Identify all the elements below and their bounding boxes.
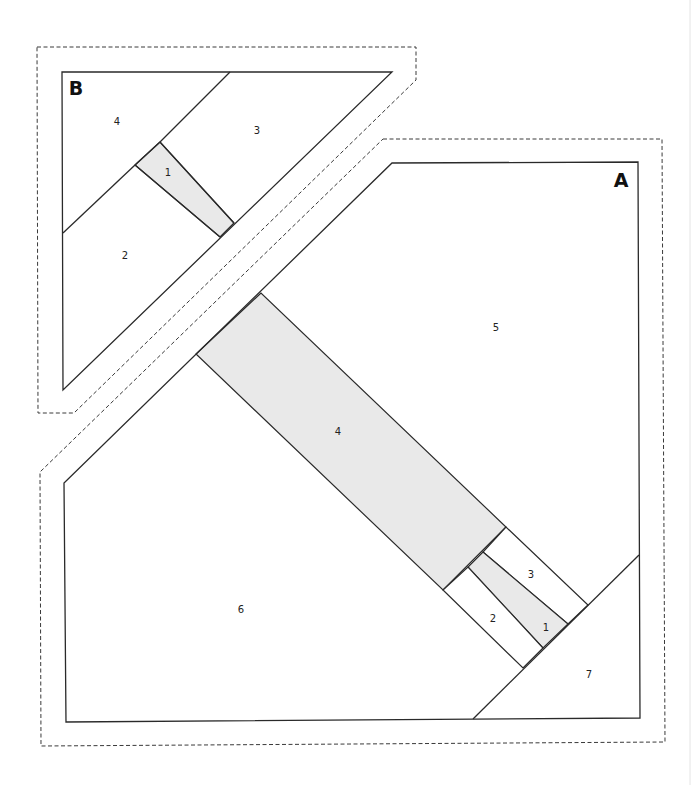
section-a-piece-2-label: 2: [490, 613, 496, 624]
section-b-piece-1: [135, 142, 234, 237]
section-a-piece-1-label: 1: [543, 622, 549, 633]
section-b-label: B: [69, 77, 83, 99]
section-a-piece-5-label: 5: [493, 322, 499, 333]
section-a-piece-6-label: 6: [238, 604, 244, 615]
section-a-piece-3-label: 3: [528, 569, 534, 580]
section-b-piece-4-label: 4: [114, 116, 120, 127]
section-a-label: A: [614, 169, 629, 191]
section-a-piece-4-label: 4: [335, 426, 341, 437]
section-a: A 1 2 3 4 5 6 7: [40, 139, 665, 746]
section-b-seam-4-2: [63, 165, 135, 233]
section-a-piece-7-label: 7: [586, 669, 592, 680]
pattern-canvas: B 1 2 3 4 A 1 2 3 4 5 6 7: [0, 0, 697, 785]
section-b-piece-3-label: 3: [254, 125, 260, 136]
section-a-piece-4: [196, 293, 506, 590]
section-b-seam-4-3: [160, 72, 230, 142]
section-b-piece-1-label: 1: [165, 167, 171, 178]
section-b-piece-2-label: 2: [122, 250, 128, 261]
